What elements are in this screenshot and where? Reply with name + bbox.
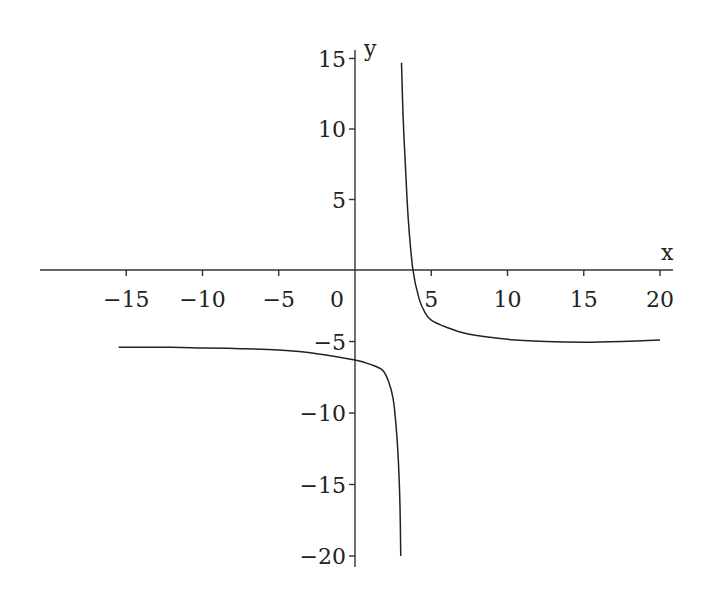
- left-branch-curve: [119, 347, 401, 556]
- x-ticks: −15−10−505101520: [103, 270, 674, 312]
- x-tick-label: −15: [103, 287, 149, 312]
- x-axis-label: x: [661, 240, 674, 265]
- x-tick-label: −5: [263, 287, 295, 312]
- y-ticks: 15105−5−10−15−20: [300, 47, 355, 570]
- y-tick-label: −20: [300, 544, 346, 569]
- y-tick-label: 15: [318, 47, 346, 72]
- x-tick-label: 15: [570, 287, 598, 312]
- x-tick-label: 20: [646, 287, 674, 312]
- y-tick-label: 5: [332, 188, 346, 213]
- y-axis-label: y: [363, 36, 377, 61]
- y-tick-label: 10: [318, 117, 346, 142]
- x-tick-label: −10: [179, 287, 225, 312]
- y-tick-label: −15: [300, 473, 346, 498]
- x-tick-label: 0: [330, 287, 344, 312]
- y-tick-label: −5: [314, 330, 346, 355]
- x-tick-label: 5: [424, 287, 438, 312]
- y-tick-label: −10: [300, 401, 346, 426]
- chart-plot-area: x y −15−10−505101520 15105−5−10−15−20: [0, 0, 708, 607]
- right-branch-curve: [402, 63, 660, 342]
- x-tick-label: 10: [494, 287, 522, 312]
